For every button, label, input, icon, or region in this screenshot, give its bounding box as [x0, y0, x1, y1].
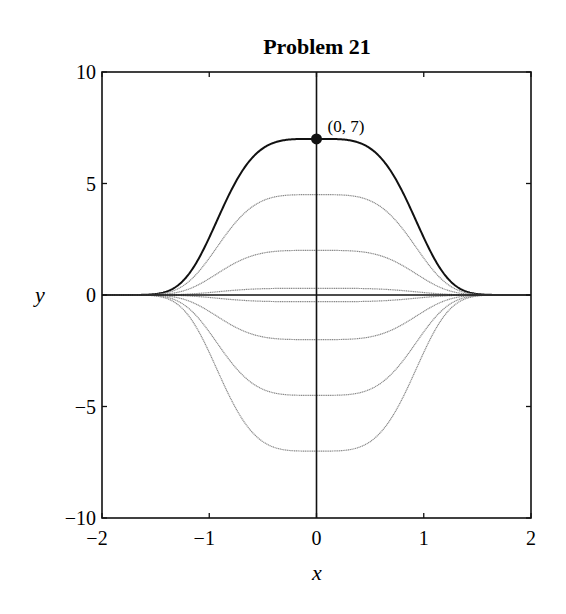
y-tick-label: 10 [76, 61, 96, 83]
x-axis-label: x [311, 560, 322, 585]
x-tick-labels: −2−1012 [86, 527, 536, 549]
y-axis-label: y [33, 282, 45, 307]
y-tick-label: −10 [65, 507, 96, 529]
x-tick-label: −2 [86, 527, 107, 549]
initial-point-marker [311, 133, 322, 144]
x-tick-label: −1 [194, 527, 215, 549]
initial-point-label: (0, 7) [328, 117, 365, 136]
chart-title: Problem 21 [263, 34, 371, 59]
x-tick-label: 0 [312, 527, 322, 549]
x-tick-label: 1 [419, 527, 429, 549]
y-tick-label: 0 [86, 284, 96, 306]
y-tick-label: 5 [86, 173, 96, 195]
chart-figure: Problem 21 −2−1012 −10−50510 x y (0, 7) [0, 0, 566, 614]
y-tick-labels: −10−50510 [65, 61, 96, 529]
x-tick-label: 2 [526, 527, 536, 549]
y-tick-label: −5 [75, 396, 96, 418]
